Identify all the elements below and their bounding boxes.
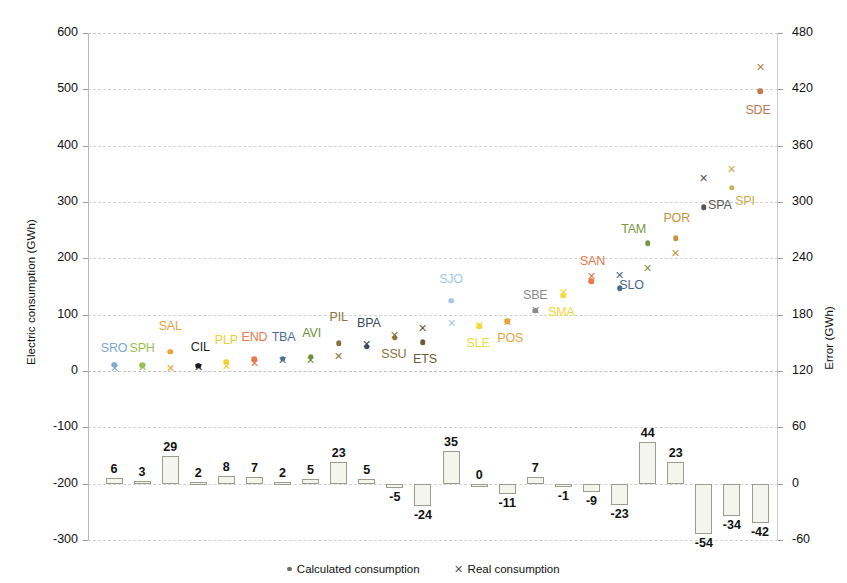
y-tick-mark-left	[83, 427, 88, 428]
error-bar	[527, 477, 544, 484]
real-consumption-point: ✕	[418, 323, 427, 334]
calculated-consumption-point	[757, 88, 763, 94]
real-consumption-point: ✕	[306, 354, 315, 365]
calculated-consumption-point	[701, 204, 707, 210]
real-consumption-point: ✕	[727, 163, 736, 174]
calculated-consumption-point	[673, 235, 679, 241]
error-bar	[695, 484, 712, 535]
calculated-consumption-point	[420, 340, 426, 346]
y-tick-mark-left	[83, 540, 88, 541]
dot-marker-icon	[287, 567, 292, 572]
y-tick-mark-left	[83, 202, 88, 203]
error-bar	[667, 462, 684, 484]
y-tick-label-right: 180	[792, 307, 838, 321]
error-bar	[190, 482, 207, 486]
y-tick-label-right: 360	[792, 138, 838, 152]
calculated-consumption-point	[448, 298, 454, 304]
legend: Calculated consumption ✕ Real consumptio…	[0, 563, 847, 575]
error-bar-value-label: 35	[444, 435, 458, 449]
point-category-label: SRO	[101, 341, 128, 355]
error-bar-value-label: 2	[195, 466, 202, 480]
y-tick-label-right: 120	[792, 363, 838, 377]
real-consumption-point: ✕	[110, 363, 119, 374]
point-category-label: POS	[497, 331, 523, 345]
calculated-consumption-point	[645, 240, 651, 246]
error-bar	[555, 484, 572, 488]
y-tick-mark-left	[83, 33, 88, 34]
real-consumption-point: ✕	[475, 320, 484, 331]
error-bar-value-label: 23	[669, 446, 683, 460]
error-bar-value-label: 5	[307, 463, 314, 477]
real-consumption-point: ✕	[699, 172, 708, 183]
error-bar-value-label: 5	[363, 463, 370, 477]
point-category-label: SBE	[523, 288, 547, 302]
error-bar-value-label: -24	[414, 508, 432, 522]
point-category-label: POR	[663, 211, 690, 225]
real-consumption-point: ✕	[643, 262, 652, 273]
error-bar-value-label: -34	[723, 518, 741, 532]
y-tick-mark-right	[778, 146, 783, 147]
y-tick-label-left: -200	[32, 476, 78, 490]
legend-label-real: Real consumption	[468, 563, 560, 575]
y-tick-mark-left	[83, 371, 88, 372]
y-tick-mark-right	[778, 540, 783, 541]
point-category-label: SJO	[439, 272, 463, 286]
y-tick-label-left: 300	[32, 194, 78, 208]
y-tick-label-right: 0	[792, 476, 838, 490]
point-category-label: BPA	[357, 316, 381, 330]
point-category-label: SMA	[548, 305, 575, 319]
real-consumption-point: ✕	[756, 62, 765, 73]
real-consumption-point: ✕	[194, 362, 203, 373]
error-bar-value-label: 7	[251, 461, 258, 475]
point-category-label: SPH	[130, 341, 155, 355]
plot-top-border	[88, 33, 778, 34]
y-tick-mark-left	[83, 484, 88, 485]
y-tick-label-right: 420	[792, 81, 838, 95]
error-bar-value-label: -23	[611, 507, 629, 521]
point-category-label: TBA	[272, 330, 296, 344]
legend-item-calculated: Calculated consumption	[287, 563, 419, 575]
y-tick-mark-right	[778, 202, 783, 203]
error-bar	[723, 484, 740, 516]
y-tick-label-left: 200	[32, 250, 78, 264]
error-bar	[752, 484, 769, 523]
y-tick-label-left: 500	[32, 81, 78, 95]
real-consumption-point: ✕	[166, 363, 175, 374]
error-bar	[274, 482, 291, 486]
point-category-label: SPI	[735, 194, 755, 208]
error-bar	[106, 478, 123, 484]
point-category-label: CIL	[191, 340, 210, 354]
y-tick-label-left: 100	[32, 307, 78, 321]
real-consumption-point: ✕	[671, 247, 680, 258]
error-bar	[330, 462, 347, 484]
point-category-label: AVI	[302, 326, 321, 340]
error-bar	[358, 479, 375, 484]
error-bar-value-label: 2	[279, 466, 286, 480]
legend-item-real: ✕ Real consumption	[454, 563, 560, 575]
point-category-label: SSU	[381, 347, 406, 361]
error-bar	[386, 484, 403, 489]
y-tick-mark-left	[83, 258, 88, 259]
y-tick-label-right: 300	[792, 194, 838, 208]
y-tick-mark-right	[778, 258, 783, 259]
y-tick-label-right: 60	[792, 419, 838, 433]
error-bar-value-label: 6	[111, 462, 118, 476]
y-tick-label-right: -60	[792, 532, 838, 546]
error-bar	[162, 456, 179, 483]
y-tick-mark-left	[83, 146, 88, 147]
real-consumption-point: ✕	[390, 329, 399, 340]
point-category-label: SAL	[159, 319, 182, 333]
y-tick-label-left: 400	[32, 138, 78, 152]
real-consumption-point: ✕	[138, 362, 147, 373]
error-bar-value-label: 3	[139, 465, 146, 479]
real-consumption-point: ✕	[447, 318, 456, 329]
error-bar-value-label: 44	[641, 426, 655, 440]
point-category-label: PIL	[330, 310, 348, 324]
error-bar	[639, 442, 656, 483]
y-tick-mark-right	[778, 89, 783, 90]
error-bar-value-label: 8	[223, 460, 230, 474]
error-bar	[302, 479, 319, 484]
point-category-label: ETS	[413, 352, 437, 366]
error-bar	[471, 484, 488, 488]
error-bar	[218, 476, 235, 484]
